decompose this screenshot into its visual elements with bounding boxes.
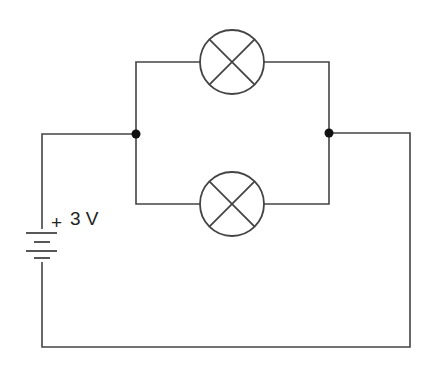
lamp-top-icon (200, 30, 264, 94)
junction-right (325, 129, 334, 138)
junction-left (132, 130, 141, 139)
wire-branch-right (264, 62, 329, 204)
battery-voltage-label: 3 V (70, 208, 99, 229)
wire-branch-left (136, 62, 200, 204)
battery-icon (26, 233, 57, 258)
wire-left-bottom (42, 133, 410, 347)
circuit-diagram: + 3 V (0, 0, 436, 366)
lamp-bottom-icon (200, 172, 264, 236)
battery-plus-sign: + (51, 212, 62, 233)
